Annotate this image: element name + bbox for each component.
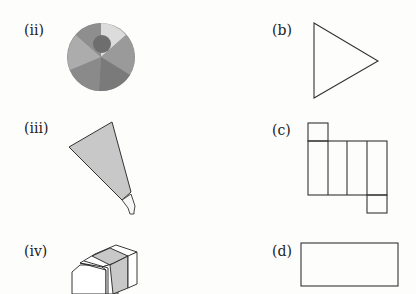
triangle-shape xyxy=(314,23,378,98)
cuboid-net-shape xyxy=(308,123,387,213)
cone-pen-icon xyxy=(69,122,135,214)
rectangle-shape xyxy=(301,243,398,286)
beach-ball-icon xyxy=(67,23,135,91)
worksheet-figure: (ii) (iii) (iv) (b) (c) (d) xyxy=(0,0,416,294)
eraser-icon xyxy=(72,245,137,294)
figures-canvas xyxy=(0,0,416,294)
